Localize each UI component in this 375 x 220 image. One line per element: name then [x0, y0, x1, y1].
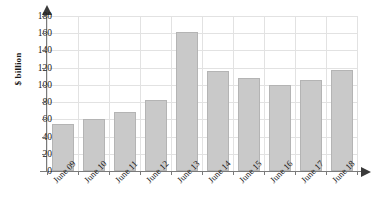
gridline-vertical: [47, 16, 48, 171]
gridline-vertical: [171, 16, 172, 171]
gridline-vertical: [78, 16, 79, 171]
x-axis-tick-mark: [47, 171, 48, 175]
y-axis-tick-mark: [42, 50, 47, 51]
y-axis-tick-mark: [42, 137, 47, 138]
gridline-vertical: [295, 16, 296, 171]
y-axis-tick-mark: [42, 154, 47, 155]
gridline-vertical: [357, 16, 358, 171]
bar: [207, 71, 229, 171]
y-axis-tick-mark: [42, 68, 47, 69]
gridline-vertical: [202, 16, 203, 171]
gridline-vertical: [109, 16, 110, 171]
x-axis-tick-mark: [264, 171, 265, 175]
y-axis-tick-mark: [42, 33, 47, 34]
gridline-vertical: [233, 16, 234, 171]
y-axis-tick-mark: [42, 119, 47, 120]
y-axis-tick-mark: [42, 102, 47, 103]
gridline-vertical: [326, 16, 327, 171]
gridline-vertical: [264, 16, 265, 171]
x-axis-tick-mark: [357, 171, 358, 175]
x-axis-tick-mark: [202, 171, 203, 175]
bar: [331, 70, 353, 171]
x-axis-tick-mark: [171, 171, 172, 175]
x-axis-tick-mark: [109, 171, 110, 175]
y-axis-tick-mark: [42, 16, 47, 17]
bar-chart: $ billion 020406080100120140160180 June …: [0, 0, 375, 220]
x-axis-tick-mark: [233, 171, 234, 175]
x-axis-tick-mark: [326, 171, 327, 175]
bar: [176, 32, 198, 172]
x-axis-arrow-icon: [361, 167, 371, 177]
x-axis-tick-mark: [295, 171, 296, 175]
x-axis-tick-mark: [78, 171, 79, 175]
gridline-vertical: [140, 16, 141, 171]
y-axis-tick-mark: [42, 85, 47, 86]
x-axis-tick-mark: [140, 171, 141, 175]
